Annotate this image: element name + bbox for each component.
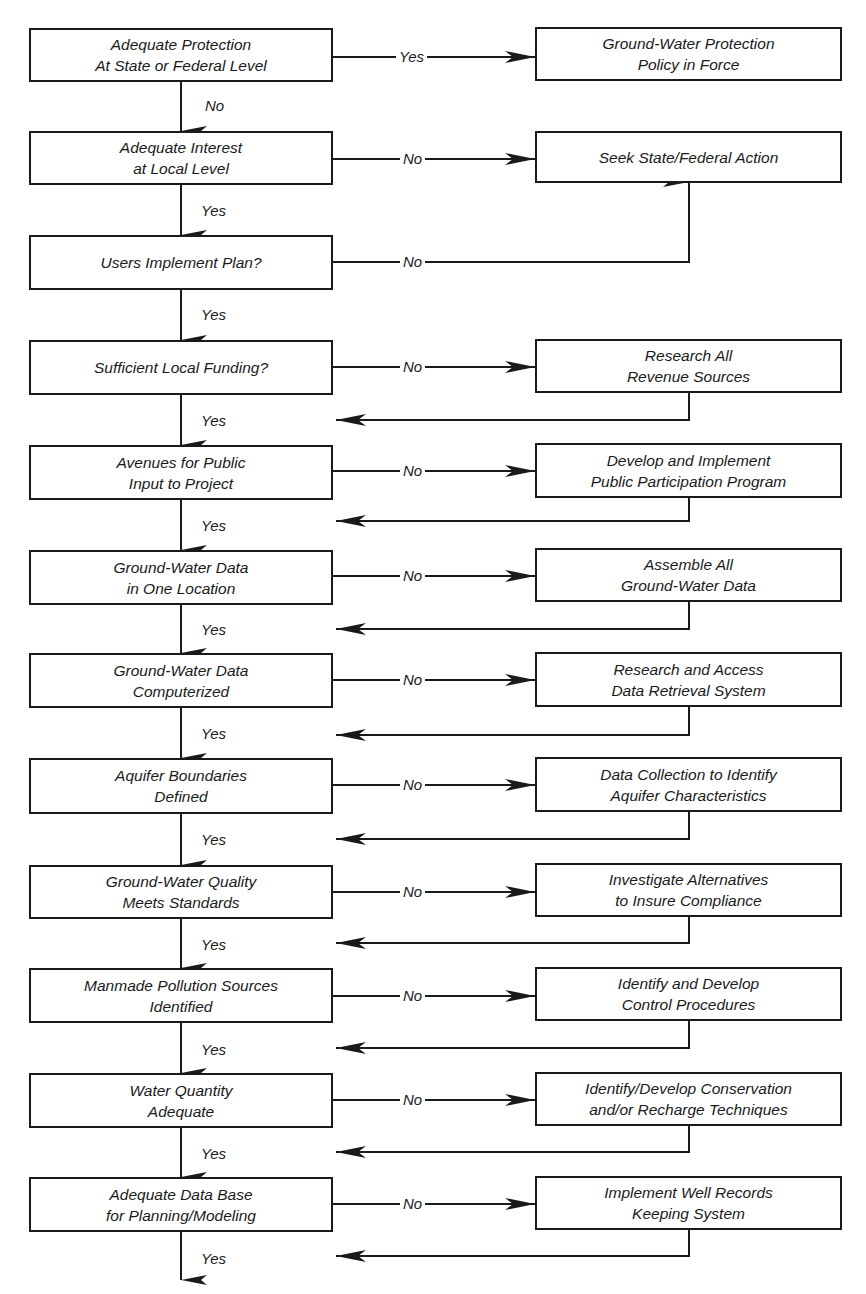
decision-local-interest: Adequate Interest at Local Level: [29, 131, 333, 185]
decision-water-quantity: Water Quantity Adequate: [29, 1073, 333, 1128]
yes-label: Yes: [201, 831, 226, 849]
yes-label: Yes: [201, 517, 226, 535]
action-label: Implement Well Records Keeping System: [604, 1182, 773, 1224]
decision-aquifer-boundaries: Aquifer Boundaries Defined: [29, 758, 333, 814]
decision-water-quality: Ground-Water Quality Meets Standards: [29, 865, 333, 919]
action-well-records: Implement Well Records Keeping System: [535, 1176, 842, 1230]
no-label: No: [400, 462, 425, 480]
yes-label: Yes: [201, 1250, 226, 1268]
action-conservation-recharge: Identify/Develop Conservation and/or Rec…: [535, 1072, 842, 1126]
decision-data-computerized: Ground-Water Data Computerized: [29, 653, 333, 708]
decision-label: Ground-Water Data Computerized: [114, 660, 249, 702]
no-label: No: [400, 1091, 425, 1109]
yes-label: Yes: [201, 936, 226, 954]
no-label: No: [400, 671, 425, 689]
action-research-revenue: Research All Revenue Sources: [535, 339, 842, 393]
no-label: No: [400, 987, 425, 1005]
outcome-protection-policy: Ground-Water Protection Policy in Force: [535, 27, 842, 81]
flowchart-canvas: Adequate Protection At State or Federal …: [0, 0, 866, 1294]
yes-label: Yes: [201, 1041, 226, 1059]
yes-label: Yes: [201, 1145, 226, 1163]
action-label: Identify/Develop Conservation and/or Rec…: [585, 1078, 792, 1120]
action-control-procedures: Identify and Develop Control Procedures: [535, 967, 842, 1021]
no-label: No: [400, 776, 425, 794]
action-aquifer-data-collection: Data Collection to Identify Aquifer Char…: [535, 757, 842, 812]
action-label: Seek State/Federal Action: [599, 147, 779, 168]
no-label: No: [400, 253, 425, 271]
decision-label: Users Implement Plan?: [100, 252, 261, 273]
decision-label: Aquifer Boundaries Defined: [115, 765, 247, 807]
decision-label: Ground-Water Data in One Location: [114, 557, 249, 599]
action-public-participation: Develop and Implement Public Participati…: [535, 443, 842, 498]
decision-label: Adequate Protection At State or Federal …: [95, 34, 266, 76]
decision-adequate-protection: Adequate Protection At State or Federal …: [29, 28, 333, 82]
decision-local-funding: Sufficient Local Funding?: [29, 340, 333, 395]
no-label: No: [400, 883, 425, 901]
action-label: Research and Access Data Retrieval Syste…: [611, 659, 765, 701]
action-label: Research All Revenue Sources: [627, 345, 750, 387]
yes-label: Yes: [201, 725, 226, 743]
decision-public-input: Avenues for Public Input to Project: [29, 445, 333, 500]
action-label: Data Collection to Identify Aquifer Char…: [600, 764, 777, 806]
action-label: Develop and Implement Public Participati…: [591, 450, 787, 492]
no-label: No: [205, 97, 224, 115]
yes-label: Yes: [201, 621, 226, 639]
yes-label: Yes: [201, 202, 226, 220]
yes-label: Yes: [201, 412, 226, 430]
decision-label: Sufficient Local Funding?: [94, 357, 268, 378]
decision-data-base: Adequate Data Base for Planning/Modeling: [29, 1177, 333, 1232]
no-label: No: [400, 150, 425, 168]
action-label: Assemble All Ground-Water Data: [621, 554, 756, 596]
action-assemble-data: Assemble All Ground-Water Data: [535, 548, 842, 602]
yes-label: Yes: [201, 306, 226, 324]
action-investigate-alternatives: Investigate Alternatives to Insure Compl…: [535, 863, 842, 917]
decision-label: Water Quantity Adequate: [129, 1080, 232, 1122]
outcome-label: Ground-Water Protection Policy in Force: [602, 33, 774, 75]
no-label: No: [400, 1195, 425, 1213]
action-seek-state-federal: Seek State/Federal Action: [535, 131, 842, 183]
action-data-retrieval: Research and Access Data Retrieval Syste…: [535, 652, 842, 707]
action-label: Identify and Develop Control Procedures: [618, 973, 759, 1015]
yes-label: Yes: [396, 48, 427, 66]
decision-label: Adequate Data Base for Planning/Modeling: [106, 1184, 256, 1226]
decision-label: Adequate Interest at Local Level: [120, 137, 242, 179]
decision-pollution-sources: Manmade Pollution Sources Identified: [29, 968, 333, 1023]
decision-label: Ground-Water Quality Meets Standards: [106, 871, 256, 913]
no-label: No: [400, 358, 425, 376]
no-label: No: [400, 567, 425, 585]
decision-label: Avenues for Public Input to Project: [117, 452, 246, 494]
action-label: Investigate Alternatives to Insure Compl…: [609, 869, 769, 911]
decision-data-one-location: Ground-Water Data in One Location: [29, 550, 333, 605]
decision-label: Manmade Pollution Sources Identified: [84, 975, 278, 1017]
decision-users-implement: Users Implement Plan?: [29, 235, 333, 290]
